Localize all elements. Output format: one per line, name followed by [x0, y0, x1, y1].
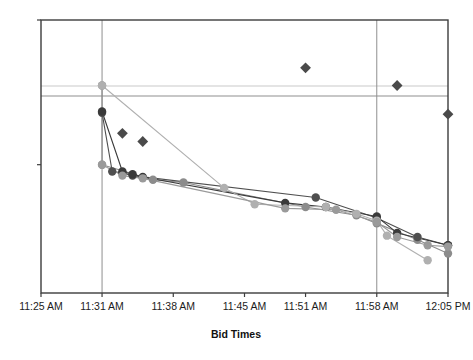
x-axis-tick-label: 11:31 AM	[80, 300, 124, 312]
data-point-circle	[332, 206, 340, 214]
data-point-circle	[423, 241, 431, 249]
data-point-circle	[139, 174, 147, 182]
data-point-circle	[383, 231, 391, 239]
data-point-circle	[312, 193, 320, 201]
data-point-circle	[373, 218, 381, 226]
x-axis-tick-label: 11:38 AM	[151, 300, 195, 312]
data-point-circle	[281, 204, 289, 212]
data-point-circle	[352, 210, 360, 218]
data-point-circle	[423, 256, 431, 264]
data-point-circle	[98, 81, 106, 89]
data-point-circle	[250, 200, 258, 208]
x-axis-tick-label: 11:45 AM	[223, 300, 267, 312]
x-axis-tick-label: 12:05 PM	[426, 300, 471, 312]
x-axis-title: Bid Times	[211, 328, 261, 340]
data-point-circle	[444, 242, 452, 250]
data-point-circle	[220, 184, 228, 192]
data-point-circle	[413, 233, 421, 241]
x-axis-tick-label: 11:58 AM	[355, 300, 399, 312]
data-point-circle	[393, 233, 401, 241]
data-point-circle	[118, 171, 126, 179]
data-point-circle	[98, 160, 106, 168]
data-point-circle	[179, 178, 187, 186]
data-point-circle	[301, 203, 309, 211]
data-point-circle	[128, 170, 136, 178]
chart-container: 11:25 AM11:31 AM11:38 AM11:45 AM11:51 AM…	[0, 0, 473, 360]
data-point-circle	[98, 107, 106, 115]
data-point-circle	[322, 203, 330, 211]
x-axis-tick-label: 11:25 AM	[19, 300, 63, 312]
bid-times-chart: 11:25 AM11:31 AM11:38 AM11:45 AM11:51 AM…	[0, 0, 473, 360]
data-point-circle	[149, 176, 157, 184]
x-axis-tick-label: 11:51 AM	[284, 300, 328, 312]
data-point-circle	[108, 167, 116, 175]
